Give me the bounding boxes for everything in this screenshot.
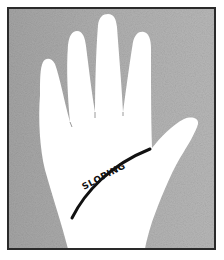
hand-illustration: SLOPING (0, 0, 224, 260)
figure: SLOPING (0, 0, 224, 260)
